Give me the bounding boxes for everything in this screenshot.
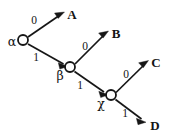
edge-label-chi-D: 1 [122,108,128,120]
edge-chi-C [116,65,144,93]
edge-label-alpha-beta: 1 [33,52,39,64]
arrowhead-C [139,61,149,68]
leaf-label-D: D [150,119,159,132]
tree-graphics [0,0,175,140]
edge-beta-B [75,35,104,64]
arrowhead-B [99,31,109,38]
edge-label-chi-C: 0 [123,69,129,81]
leaf-label-C: C [151,56,160,69]
edge-chi-D [116,100,142,120]
node-chi-circle [106,90,116,100]
leaf-label-A: A [67,8,76,21]
node-label-beta: β [56,70,63,83]
node-beta-circle [65,62,75,72]
node-alpha-circle [18,35,28,45]
edge-label-alpha-A: 0 [31,15,37,27]
leaf-label-B: B [112,27,121,40]
edge-label-beta-B: 0 [82,41,88,53]
edge-label-beta-chi: 1 [77,80,83,92]
node-label-chi: χ [97,98,105,111]
binary-tree-figure: α β χ A B C D 0 1 0 1 0 1 [0,0,175,140]
node-label-alpha: α [8,36,16,49]
